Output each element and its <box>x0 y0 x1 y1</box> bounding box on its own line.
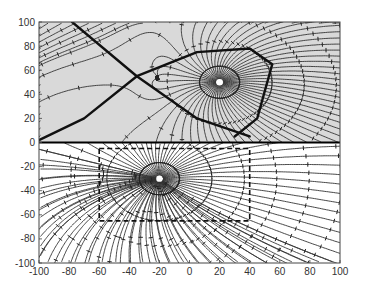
y-tick-label: -60 <box>21 209 36 220</box>
y-tick-label: 80 <box>24 41 36 52</box>
x-tick-label: 0 <box>187 266 193 277</box>
y-tick-label: -80 <box>21 233 36 244</box>
y-tick-label: 60 <box>24 65 36 76</box>
x-tick-label: 80 <box>304 266 316 277</box>
x-tick-label: -40 <box>122 266 137 277</box>
x-tick-label: 40 <box>244 266 256 277</box>
x-tick-label: 60 <box>274 266 286 277</box>
x-tick-label: 100 <box>332 266 349 277</box>
x-tick-label: -80 <box>62 266 77 277</box>
x-tick-label: 20 <box>214 266 226 277</box>
streamline-chart: -100-80-60-40-20020406080100 -100-80-60-… <box>0 0 368 301</box>
x-tick-label: -20 <box>152 266 167 277</box>
y-axis-ticks: -100-80-60-40-20020406080100 <box>15 17 42 269</box>
y-tick-label: 20 <box>24 113 36 124</box>
y-tick-label: -40 <box>21 185 36 196</box>
y-tick-label: -20 <box>21 161 36 172</box>
y-tick-label: 40 <box>24 89 36 100</box>
y-tick-label: 100 <box>18 17 35 28</box>
y-tick-label: -100 <box>15 258 35 269</box>
y-tick-label: 0 <box>29 137 35 148</box>
x-tick-label: -60 <box>92 266 107 277</box>
